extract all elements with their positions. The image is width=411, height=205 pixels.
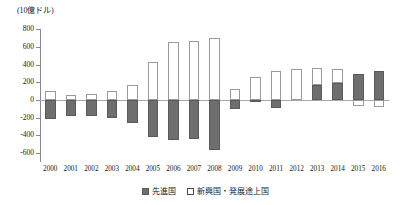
y-tick-label: -600 (0, 149, 34, 157)
x-tick-label: 2000 (40, 164, 61, 174)
x-axis-labels: 2000200120022003200420052006200720082009… (40, 164, 389, 176)
chart-container: (10億ドル) 8006004002000-200-400-600 200020… (0, 0, 411, 205)
x-tick-label: 2005 (143, 164, 164, 174)
bar-group (291, 29, 302, 162)
hollow-square-icon (187, 188, 194, 195)
filled-square-icon (142, 188, 149, 195)
bar-segment-advanced (189, 100, 200, 139)
bar-segment-emerging (107, 91, 118, 100)
bar-segment-emerging (127, 85, 138, 100)
bar-segment-advanced (374, 71, 385, 100)
y-tick-label: -400 (0, 131, 34, 139)
bar-segment-advanced (209, 100, 220, 150)
x-tick-label: 2015 (348, 164, 369, 174)
bar-segment-advanced (107, 100, 118, 118)
x-tick-label: 2001 (61, 164, 82, 174)
x-tick-label: 2009 (225, 164, 246, 174)
bar-segment-emerging (271, 71, 282, 100)
x-tick-label: 2011 (266, 164, 287, 174)
legend-label-advanced: 先進国 (152, 186, 176, 197)
bar-segment-emerging (86, 94, 97, 100)
bar-segment-emerging (148, 62, 159, 100)
x-tick-label: 2004 (122, 164, 143, 174)
bar-segment-advanced (312, 85, 323, 100)
bar-group (45, 29, 56, 162)
bar-segment-emerging (250, 77, 261, 100)
bar-series-group (40, 29, 389, 162)
x-tick-label: 2007 (184, 164, 205, 174)
x-tick-label: 2016 (369, 164, 390, 174)
bar-group (209, 29, 220, 162)
bar-segment-advanced (127, 100, 138, 124)
bar-group (66, 29, 77, 162)
bar-segment-advanced (250, 100, 261, 102)
y-tick-label: 0 (0, 96, 34, 104)
x-tick-label: 2012 (286, 164, 307, 174)
bar-segment-emerging (189, 41, 200, 100)
x-tick-label: 2008 (204, 164, 225, 174)
bar-segment-advanced (45, 100, 56, 120)
bar-group (148, 29, 159, 162)
bar-segment-emerging (312, 68, 323, 85)
bar-group (374, 29, 385, 162)
bar-group (168, 29, 179, 162)
bar-group (271, 29, 282, 162)
plot-area: 8006004002000-200-400-600 (40, 29, 389, 162)
bar-group (353, 29, 364, 162)
legend-label-emerging: 新興国・発展途上国 (197, 186, 269, 197)
bar-segment-emerging (291, 69, 302, 101)
legend-item-emerging: 新興国・発展途上国 (187, 186, 269, 197)
x-tick-label: 2014 (327, 164, 348, 174)
bar-segment-emerging (45, 91, 56, 100)
y-tick-label: -200 (0, 114, 34, 122)
y-tick-label: 600 (0, 43, 34, 51)
x-tick-label: 2006 (163, 164, 184, 174)
bar-group (86, 29, 97, 162)
x-tick-label: 2003 (102, 164, 123, 174)
chart-legend: 先進国 新興国・発展途上国 (0, 186, 411, 197)
bar-segment-emerging (374, 100, 385, 107)
bar-segment-advanced (148, 100, 159, 137)
x-tick-label: 2010 (245, 164, 266, 174)
bar-segment-emerging (230, 89, 241, 100)
bar-group (230, 29, 241, 162)
bar-segment-emerging (168, 42, 179, 100)
bar-group (189, 29, 200, 162)
bar-group (250, 29, 261, 162)
y-tick-label: 800 (0, 25, 34, 33)
bar-segment-advanced (66, 100, 77, 116)
bar-segment-advanced (86, 100, 97, 116)
bar-segment-emerging (209, 38, 220, 100)
bar-segment-emerging (332, 69, 343, 84)
y-tick-label: 400 (0, 61, 34, 69)
y-tick-label: 200 (0, 78, 34, 86)
x-tick-label: 2013 (307, 164, 328, 174)
x-tick-label: 2002 (81, 164, 102, 174)
bar-segment-advanced (353, 74, 364, 100)
y-axis-unit-label: (10億ドル) (17, 6, 54, 16)
bar-segment-advanced (332, 83, 343, 100)
bar-group (127, 29, 138, 162)
legend-item-advanced: 先進国 (142, 186, 176, 197)
bar-group (312, 29, 323, 162)
bar-segment-emerging (66, 95, 77, 100)
bar-segment-advanced (230, 100, 241, 109)
bar-segment-advanced (168, 100, 179, 140)
bar-group (107, 29, 118, 162)
bar-segment-advanced (271, 100, 282, 108)
bar-segment-emerging (353, 100, 364, 106)
bar-group (332, 29, 343, 162)
